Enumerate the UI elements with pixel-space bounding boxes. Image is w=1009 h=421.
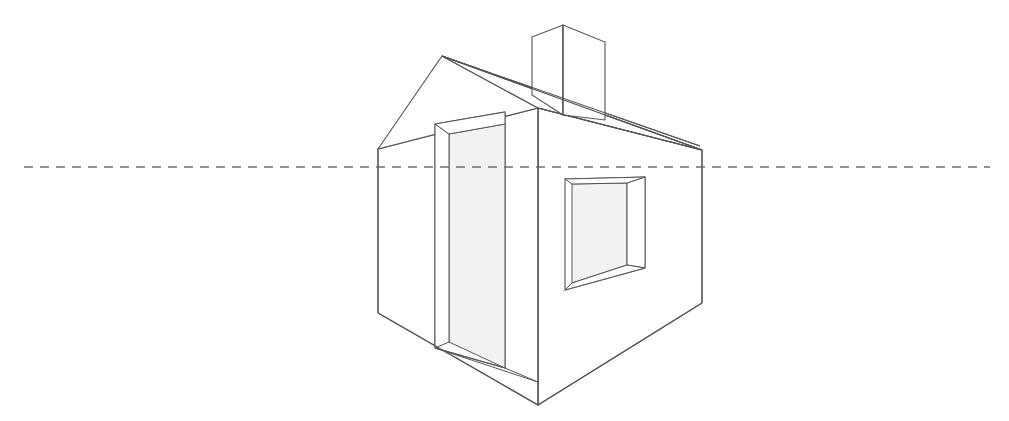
door-left-jamb-reveal bbox=[435, 124, 449, 348]
window-right-jamb-reveal bbox=[627, 177, 645, 268]
drawing-canvas: Two-point perspective house drawing bbox=[0, 0, 1009, 421]
door-panel[interactable] bbox=[449, 124, 505, 368]
door-group[interactable] bbox=[435, 112, 505, 368]
perspective-house-drawing: Two-point perspective house drawing bbox=[0, 0, 1009, 421]
